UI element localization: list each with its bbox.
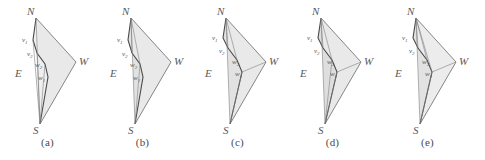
panel-e-drawing: N S E W v1 v2 w2 w1 — [380, 0, 475, 140]
label-v2: v2 — [409, 47, 415, 56]
label-west: W — [79, 55, 89, 67]
panel-caption: (a) — [0, 136, 95, 148]
panel-caption: (c) — [190, 136, 285, 148]
label-v1: v1 — [212, 34, 218, 43]
label-south: S — [318, 124, 324, 136]
label-south: S — [33, 124, 39, 136]
panel-c-drawing: N S E W v1 v2 w2 w1 — [190, 0, 285, 140]
panel-e: N S E W v1 v2 w2 w1 (e) — [380, 0, 475, 160]
label-v2: v2 — [27, 50, 33, 59]
panel-caption: (e) — [380, 136, 475, 148]
panel-b-drawing: N S E W v1 v2 w2 w1 — [95, 0, 190, 140]
label-v2: v2 — [314, 47, 320, 56]
panel-caption: (b) — [95, 136, 190, 148]
panel-caption: (d) — [285, 136, 380, 148]
label-v2: v2 — [219, 47, 225, 56]
label-v1: v1 — [307, 34, 313, 43]
label-v2: v2 — [122, 50, 128, 59]
label-v1: v1 — [22, 36, 28, 45]
panel-d-drawing: N S E W v1 v2 w2 w1 — [285, 0, 380, 140]
label-east: E — [14, 67, 22, 79]
label-east: E — [204, 67, 212, 79]
label-east: E — [109, 67, 117, 79]
label-west: W — [364, 55, 374, 67]
label-north: N — [121, 5, 130, 17]
label-west: W — [269, 55, 279, 67]
label-north: N — [26, 5, 35, 17]
label-v1: v1 — [402, 34, 408, 43]
label-south: S — [413, 124, 419, 136]
label-east: E — [299, 67, 307, 79]
panel-b: N S E W v1 v2 w2 w1 (b) — [95, 0, 190, 160]
label-east: E — [394, 67, 402, 79]
label-north: N — [216, 5, 225, 17]
figure-row: N S E W v1 v2 w2 w1 (a) — [0, 0, 485, 160]
label-west: W — [459, 55, 469, 67]
label-west: W — [174, 55, 184, 67]
panel-d: N S E W v1 v2 w2 w1 (d) — [285, 0, 380, 160]
label-north: N — [311, 5, 320, 17]
panel-a: N S E W v1 v2 w2 w1 (a) — [0, 0, 95, 160]
label-south: S — [223, 124, 229, 136]
label-south: S — [128, 124, 134, 136]
panel-c: N S E W v1 v2 w2 w1 (c) — [190, 0, 285, 160]
label-north: N — [406, 5, 415, 17]
label-v1: v1 — [117, 36, 123, 45]
panel-a-drawing: N S E W v1 v2 w2 w1 — [0, 0, 95, 140]
